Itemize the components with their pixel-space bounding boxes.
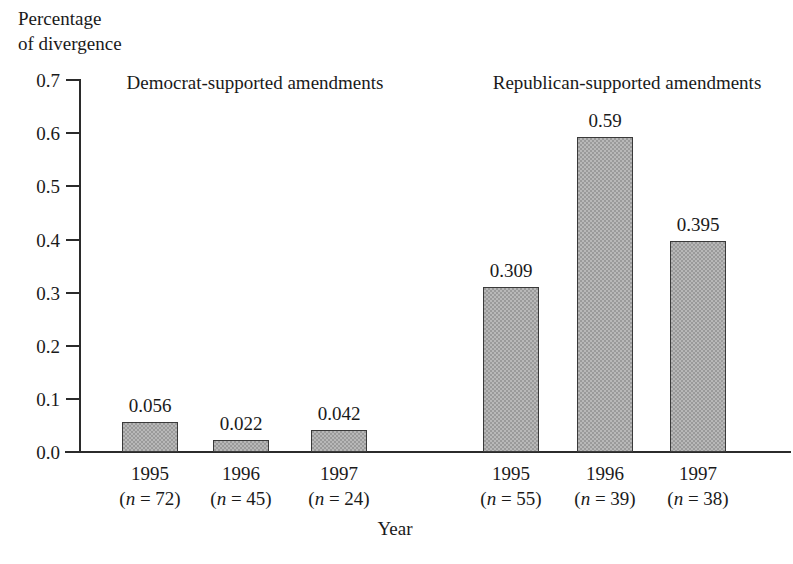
- x-category-n: (n = 45): [186, 486, 296, 511]
- y-tick-0.6: [66, 132, 80, 134]
- y-axis-line: [79, 79, 81, 453]
- bar-democrat-1995: [122, 422, 178, 452]
- bar-value-democrat-1995: 0.056: [100, 396, 200, 415]
- y-tick-0.0: [66, 451, 80, 453]
- bar-democrat-1996: [213, 440, 269, 452]
- bar-republican-1995: [483, 287, 539, 452]
- y-tick-label-0.0: 0.0: [14, 443, 60, 462]
- bar-value-republican-1997: 0.395: [648, 215, 748, 234]
- y-tick-label-0.6: 0.6: [14, 124, 60, 143]
- bar-value-republican-1996: 0.59: [555, 111, 655, 130]
- y-tick-label-0.7: 0.7: [14, 71, 60, 90]
- bar-democrat-1997: [311, 430, 367, 452]
- bar-chart-figure: Percentage of divergence 0.7 0.6 0.5 0.4…: [0, 0, 793, 564]
- y-tick-0.7: [66, 79, 80, 81]
- x-category-democrat-1997: 1997 (n = 24): [284, 461, 394, 511]
- x-axis-title: Year: [340, 518, 450, 540]
- y-tick-0.5: [66, 185, 80, 187]
- bar-value-democrat-1997: 0.042: [289, 404, 389, 423]
- group-heading-republican: Republican-supported amendments: [462, 72, 792, 94]
- y-tick-label-0.2: 0.2: [14, 337, 60, 356]
- y-axis-title-line-2: of divergence: [18, 31, 122, 56]
- x-category-year: 1996: [186, 461, 296, 486]
- x-category-year: 1997: [284, 461, 394, 486]
- bar-value-democrat-1996: 0.022: [191, 414, 291, 433]
- x-category-year: 1997: [643, 461, 753, 486]
- bar-value-republican-1995: 0.309: [461, 261, 561, 280]
- y-tick-label-0.4: 0.4: [14, 231, 60, 250]
- y-axis-title-line-1: Percentage: [18, 6, 122, 31]
- x-category-republican-1997: 1997 (n = 38): [643, 461, 753, 511]
- x-category-n: (n = 24): [284, 486, 394, 511]
- y-tick-0.4: [66, 239, 80, 241]
- y-tick-label-0.5: 0.5: [14, 177, 60, 196]
- y-tick-0.2: [66, 345, 80, 347]
- bar-republican-1997: [670, 241, 726, 452]
- bar-republican-1996: [577, 137, 633, 452]
- y-tick-label-0.3: 0.3: [14, 284, 60, 303]
- y-axis-title: Percentage of divergence: [18, 6, 122, 56]
- y-tick-0.1: [66, 398, 80, 400]
- x-category-democrat-1996: 1996 (n = 45): [186, 461, 296, 511]
- y-tick-0.3: [66, 292, 80, 294]
- group-heading-democrat: Democrat-supported amendments: [100, 72, 410, 94]
- y-tick-label-0.1: 0.1: [14, 390, 60, 409]
- x-category-n: (n = 38): [643, 486, 753, 511]
